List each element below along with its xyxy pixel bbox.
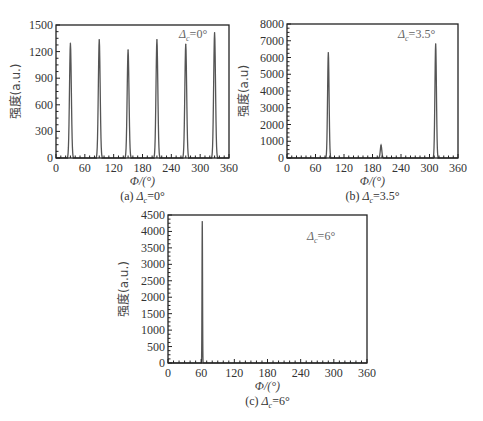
- chart-panel-a: 060120180240300360030060090012001500Φ/(°…: [8, 18, 238, 205]
- x-axis-label: Φ/(°): [255, 379, 280, 393]
- y-tick-label: 4000: [260, 84, 284, 98]
- intensity-trace-a: [56, 33, 229, 158]
- y-tick-label: 1200: [29, 45, 53, 59]
- x-tick-label: 0: [284, 161, 290, 175]
- x-tick-label: 360: [449, 161, 467, 175]
- x-tick-label: 120: [335, 161, 353, 175]
- y-tick-label: 2000: [141, 290, 165, 304]
- peak-point: [328, 52, 329, 53]
- y-tick-label: 900: [35, 71, 53, 85]
- y-tick-label: 3000: [141, 257, 165, 271]
- x-tick-label: 180: [364, 161, 382, 175]
- caption-prefix: (b): [345, 189, 362, 203]
- y-tick-label: 2500: [141, 274, 165, 288]
- x-axis-label: Φ/(°): [360, 174, 385, 188]
- y-tick-label: 1000: [260, 134, 284, 148]
- x-tick-label: 180: [259, 366, 277, 380]
- peak-point: [435, 43, 436, 44]
- caption-value: =0°: [147, 189, 165, 203]
- y-axis-label: 强度(a.u.): [116, 261, 131, 317]
- y-tick-label: 4500: [141, 208, 165, 222]
- y-tick-label: 1500: [29, 18, 53, 32]
- x-tick-label: 120: [225, 366, 243, 380]
- y-tick-label: 3000: [260, 101, 284, 115]
- x-tick-label: 0: [53, 161, 59, 175]
- x-tick-label: 240: [392, 161, 410, 175]
- x-tick-label: 0: [165, 366, 171, 380]
- y-tick-label: 0: [159, 356, 165, 370]
- panel-caption-a: (a) Δc=0°: [120, 189, 165, 205]
- annotation-value: =3.5°: [409, 27, 436, 41]
- y-tick-label: 4000: [141, 224, 165, 238]
- peak-point: [70, 43, 71, 44]
- x-tick-label: 240: [162, 161, 180, 175]
- chart-panel-c: 0601201802403003600500100015002000250030…: [116, 208, 376, 410]
- caption-symbol: Δ: [261, 394, 269, 408]
- y-tick-label: 7000: [260, 34, 284, 48]
- y-tick-label: 1500: [141, 307, 165, 321]
- caption-symbol: Δ: [136, 189, 144, 203]
- peak-point: [127, 49, 128, 50]
- annotation-symbol: Δ: [178, 27, 186, 41]
- annotation-symbol: Δ: [397, 27, 405, 41]
- y-tick-label: 2000: [260, 118, 284, 132]
- plot-frame-a: [56, 25, 229, 158]
- annotation-value: =6°: [318, 229, 336, 243]
- x-tick-label: 60: [310, 161, 322, 175]
- panel-caption-b: (b) Δc=3.5°: [345, 189, 399, 205]
- peak-point: [202, 221, 203, 222]
- annotation-b: Δc=3.5°: [397, 27, 435, 43]
- y-axis-label: 强度(a.u.): [8, 64, 23, 120]
- figure: 060120180240300360030060090012001500Φ/(°…: [0, 0, 483, 421]
- x-tick-label: 300: [191, 161, 209, 175]
- caption-value: =6°: [272, 394, 290, 408]
- y-axis-label: 强度(a.u): [236, 65, 251, 117]
- y-tick-label: 3500: [141, 241, 165, 255]
- x-tick-label: 360: [358, 366, 376, 380]
- x-tick-label: 300: [421, 161, 439, 175]
- annotation-a: Δc=0°: [178, 27, 207, 43]
- caption-prefix: (c): [245, 394, 261, 408]
- y-tick-label: 0: [278, 151, 284, 165]
- peak-point: [156, 39, 157, 40]
- chart-panel-b: 0601201802403003600100020003000400050006…: [236, 17, 467, 205]
- y-tick-label: 6000: [260, 51, 284, 65]
- y-tick-label: 300: [35, 124, 53, 138]
- x-tick-label: 300: [325, 366, 343, 380]
- x-tick-label: 120: [105, 161, 123, 175]
- panel-caption-c: (c) Δc=6°: [245, 394, 290, 410]
- x-tick-label: 360: [220, 161, 238, 175]
- peak-point: [380, 145, 381, 146]
- y-tick-label: 0: [47, 151, 53, 165]
- y-tick-label: 1000: [141, 323, 165, 337]
- plot-frame-c: [168, 215, 367, 363]
- y-tick-label: 600: [35, 98, 53, 112]
- peak-point: [214, 32, 215, 33]
- y-tick-label: 8000: [260, 17, 284, 31]
- annotation-c: Δc=6°: [306, 229, 335, 245]
- intensity-trace-b: [287, 44, 458, 158]
- x-tick-label: 60: [79, 161, 91, 175]
- plot-frame-b: [287, 24, 458, 158]
- x-tick-label: 240: [292, 366, 310, 380]
- peak-point: [185, 43, 186, 44]
- x-axis-label: Φ/(°): [130, 174, 155, 188]
- annotation-value: =0°: [190, 27, 208, 41]
- caption-prefix: (a): [120, 189, 136, 203]
- y-tick-label: 5000: [260, 67, 284, 81]
- intensity-trace-c: [168, 222, 367, 363]
- y-tick-label: 500: [147, 340, 165, 354]
- x-tick-label: 60: [195, 366, 207, 380]
- caption-symbol: Δ: [361, 189, 369, 203]
- caption-value: =3.5°: [373, 189, 400, 203]
- annotation-symbol: Δ: [306, 229, 314, 243]
- x-tick-label: 180: [134, 161, 152, 175]
- peak-point: [99, 39, 100, 40]
